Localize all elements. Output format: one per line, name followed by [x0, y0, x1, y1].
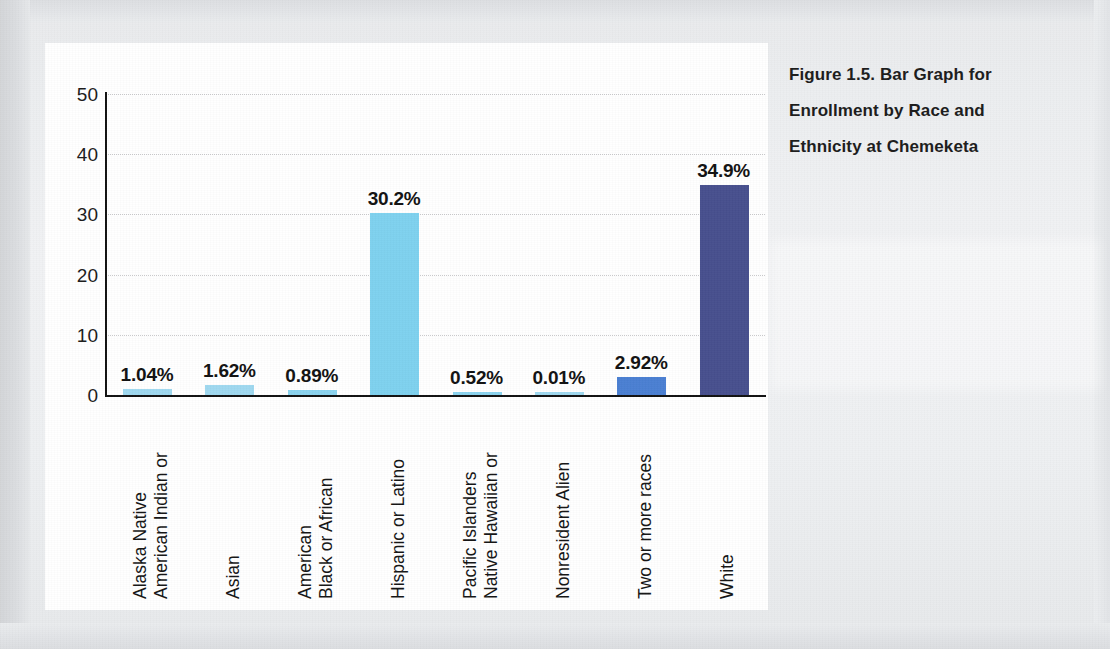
- bar-group: 30.2%: [353, 94, 435, 395]
- bar-value-label: 34.9%: [673, 161, 775, 180]
- bar-value-label: 30.2%: [343, 189, 445, 208]
- x-axis-category-label-line: Alaska Native: [130, 492, 151, 599]
- x-axis-category-label: Nonresident Alien: [518, 399, 600, 609]
- bar-group: 2.92%: [600, 94, 682, 395]
- caption-line-2: Enrollment by Race and: [789, 93, 1089, 129]
- y-axis-tick-label: 30: [48, 205, 98, 224]
- y-axis-line: [105, 92, 107, 397]
- y-axis-tick-label: 40: [48, 145, 98, 164]
- bar-group: 34.9%: [683, 94, 765, 395]
- bar-value-label: 0.89%: [261, 366, 363, 385]
- x-axis-category-label: Native Hawaiian orPacific Islanders: [436, 399, 518, 609]
- plot-area: 1.04%1.62%0.89%30.2%0.52%0.01%2.92%34.9%: [106, 94, 765, 395]
- bar[interactable]: [370, 213, 419, 395]
- caption-line-3: Ethnicity at Chemeketa: [789, 129, 1089, 165]
- bar-group: 0.52%: [436, 94, 518, 395]
- y-axis-tick-label: 20: [48, 266, 98, 285]
- x-axis-category-label-line: Native Hawaiian or: [481, 452, 502, 599]
- y-axis-tick-label: 0: [48, 386, 98, 405]
- bar[interactable]: [617, 377, 666, 395]
- bar-group: 0.89%: [271, 94, 353, 395]
- x-axis-category-label-line: American: [295, 525, 316, 599]
- y-axis-tick-labels: 01020304050: [45, 43, 98, 610]
- bar-group: 0.01%: [518, 94, 600, 395]
- x-axis-category-labels: American Indian orAlaska NativeAsianBlac…: [106, 399, 765, 609]
- page-edge-bottom: [0, 623, 1110, 649]
- x-axis-category-label-line: White: [717, 554, 738, 599]
- x-axis-category-label-line: Two or more races: [635, 454, 656, 599]
- caption-line-1: Figure 1.5. Bar Graph for: [789, 57, 1089, 93]
- y-axis-tick-label: 50: [48, 85, 98, 104]
- x-axis-category-label: Black or AfricanAmerican: [271, 399, 353, 609]
- chart-card: 01020304050 1.04%1.62%0.89%30.2%0.52%0.0…: [45, 43, 768, 610]
- bar-group: 1.62%: [188, 94, 270, 395]
- x-axis-category-label-line: Black or African: [316, 477, 337, 599]
- bar[interactable]: [205, 385, 254, 395]
- x-axis-category-label-line: Nonresident Alien: [553, 462, 574, 599]
- x-axis-category-label: Two or more races: [600, 399, 682, 609]
- scanned-page: 01020304050 1.04%1.62%0.89%30.2%0.52%0.0…: [0, 0, 1110, 649]
- page-edge-top: [0, 0, 1110, 22]
- bar-group: 1.04%: [106, 94, 188, 395]
- x-axis-category-label: Hispanic or Latino: [353, 399, 435, 609]
- x-axis-line: [105, 395, 766, 397]
- bar-value-label: 2.92%: [590, 353, 692, 372]
- x-axis-category-label-line: Pacific Islanders: [460, 472, 481, 599]
- x-axis-category-label-line: Asian: [223, 555, 244, 599]
- bar[interactable]: [700, 185, 749, 395]
- x-axis-category-label: American Indian orAlaska Native: [106, 399, 188, 609]
- page-edge-left: [0, 0, 30, 649]
- x-axis-category-label-line: Hispanic or Latino: [388, 459, 409, 599]
- y-axis-tick-label: 10: [48, 326, 98, 345]
- bar-chart: 01020304050 1.04%1.62%0.89%30.2%0.52%0.0…: [45, 43, 768, 610]
- scan-artifact: [770, 240, 1100, 390]
- x-axis-category-label: White: [683, 399, 765, 609]
- x-axis-category-label-line: American Indian or: [151, 452, 172, 599]
- x-axis-category-label: Asian: [188, 399, 270, 609]
- figure-caption: Figure 1.5. Bar Graph for Enrollment by …: [789, 57, 1089, 165]
